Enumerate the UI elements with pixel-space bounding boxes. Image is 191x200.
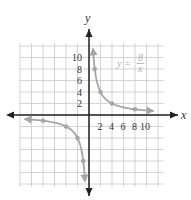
data-point xyxy=(133,107,138,112)
data-point xyxy=(98,90,103,95)
y-tick: 10 xyxy=(72,52,82,63)
equation-label: y = 8 x xyxy=(116,52,145,74)
data-point xyxy=(92,67,97,72)
data-point xyxy=(75,136,80,141)
arrow-up-icon xyxy=(86,29,93,37)
y-axis-label: y xyxy=(84,11,91,25)
x-tick: 10 xyxy=(140,121,150,132)
x-tick: 8 xyxy=(132,121,137,132)
y-tick: 4 xyxy=(77,87,82,98)
data-point xyxy=(64,124,69,129)
graph: y x 2 4 6 8 10 2 4 6 8 10 y = 8 x xyxy=(0,0,191,200)
x-tick: 4 xyxy=(109,121,114,132)
equation-numerator: 8 xyxy=(138,52,143,63)
arrow-down-icon xyxy=(86,188,93,196)
arrow-left-icon xyxy=(6,112,14,119)
x-tick: 6 xyxy=(121,121,126,132)
x-axis-label: x xyxy=(180,108,187,122)
data-point xyxy=(81,159,86,164)
y-tick: 2 xyxy=(77,98,82,109)
data-point xyxy=(41,118,46,123)
equation-lhs: y = xyxy=(116,58,131,69)
x-tick: 2 xyxy=(98,121,103,132)
data-point xyxy=(110,101,115,106)
y-tick: 8 xyxy=(77,64,82,75)
y-tick: 6 xyxy=(77,75,82,86)
arrow-right-icon xyxy=(170,112,178,119)
equation-denominator: x xyxy=(137,63,143,74)
